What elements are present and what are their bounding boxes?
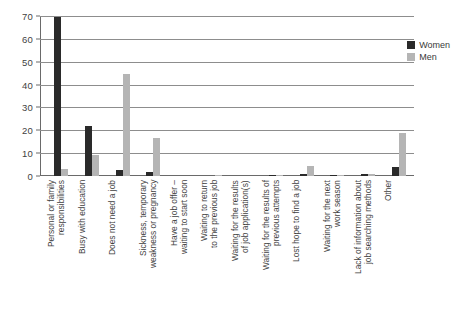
y-tick-label: 40 xyxy=(22,79,33,90)
bar-group xyxy=(138,16,169,176)
y-tick-mark xyxy=(36,16,40,17)
y-tick-label: 10 xyxy=(22,148,33,159)
x-axis-label: Sickness, temporary weakness or pregnanc… xyxy=(138,180,169,322)
bar-men xyxy=(276,175,283,176)
plot-area: 706050403020100 xyxy=(40,16,414,176)
bar-men xyxy=(368,174,375,176)
y-tick-label: 50 xyxy=(22,56,33,67)
bar-women xyxy=(300,174,307,176)
bar-men xyxy=(337,175,344,176)
y-tick-mark xyxy=(36,61,40,62)
bar-women xyxy=(361,174,368,176)
legend-label: Women xyxy=(419,40,450,50)
bar-group xyxy=(261,16,292,176)
bar-group xyxy=(46,16,77,176)
bar-chart: 706050403020100 Personal or family respo… xyxy=(0,0,462,328)
y-tick-label: 70 xyxy=(22,11,33,22)
y-tick-label: 60 xyxy=(22,33,33,44)
chart-legend: WomenMen xyxy=(407,40,450,62)
bar-women xyxy=(330,175,337,176)
bar-group xyxy=(353,16,384,176)
x-axis-label: Waiting to return to the previous job xyxy=(199,180,230,322)
bar-men xyxy=(215,175,222,176)
bar-women xyxy=(54,17,61,176)
bar-group xyxy=(322,16,353,176)
bar-group xyxy=(169,16,200,176)
x-axis-label: Does not need a job xyxy=(107,180,138,322)
legend-item: Women xyxy=(407,40,450,50)
x-axis-label: Waiting for the results of previous atte… xyxy=(261,180,292,322)
bar-group xyxy=(230,16,261,176)
legend-item: Men xyxy=(407,52,450,62)
bar-men xyxy=(61,169,68,176)
y-tick-mark xyxy=(36,176,40,177)
bar-group xyxy=(199,16,230,176)
bar-group xyxy=(291,16,322,176)
bar-women xyxy=(269,175,276,176)
bar-men xyxy=(153,138,160,176)
bar-women xyxy=(116,170,123,176)
bar-group xyxy=(107,16,138,176)
legend-swatch-women xyxy=(407,41,415,49)
y-tick-label: 0 xyxy=(28,171,33,182)
y-tick-mark xyxy=(36,84,40,85)
x-axis-label: Other xyxy=(383,180,414,322)
bar-women xyxy=(392,167,399,176)
bar-women xyxy=(146,172,153,176)
y-tick-mark xyxy=(36,130,40,131)
bar-men xyxy=(399,133,406,176)
x-axis-label: Waiting for the results of job applicati… xyxy=(230,180,261,322)
bar-group xyxy=(77,16,108,176)
y-tick-label: 20 xyxy=(22,125,33,136)
x-axis-label: Busy with education xyxy=(77,180,108,322)
y-tick-mark xyxy=(36,107,40,108)
y-tick-mark xyxy=(36,38,40,39)
x-axis-label: Lack of information about job searching … xyxy=(353,180,384,322)
legend-swatch-men xyxy=(407,53,415,61)
x-axis-label: Lost hope to find a job xyxy=(291,180,322,322)
x-axis-label: Have a job offer – waiting to start soon xyxy=(169,180,200,322)
y-tick-mark xyxy=(36,153,40,154)
legend-label: Men xyxy=(419,52,437,62)
x-axis-category-labels: Personal or family responsibilitiesBusy … xyxy=(40,180,414,328)
bar-women xyxy=(85,126,92,176)
bar-men xyxy=(123,74,130,176)
bar-men xyxy=(92,155,99,176)
x-axis-label: Personal or family responsibilities xyxy=(46,180,77,322)
y-axis-line xyxy=(40,16,41,176)
y-tick-label: 30 xyxy=(22,102,33,113)
bar-men xyxy=(307,166,314,176)
x-axis-label: Waiting for the next work season xyxy=(322,180,353,322)
